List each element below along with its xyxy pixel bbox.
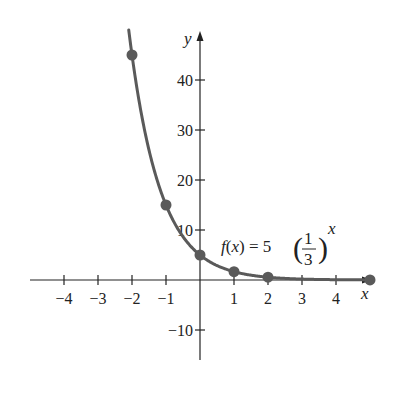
formula-equals-5: = 5 <box>245 237 272 256</box>
exponential-function-chart: −4−3−2−11234 40302010−10 x y f(x) = 5 ( … <box>0 0 393 394</box>
formula-numerator: 1 <box>304 229 313 248</box>
formula-big-open-paren: ( <box>293 231 303 265</box>
data-point <box>263 272 274 283</box>
x-tick-label: 3 <box>298 290 306 307</box>
x-axis-label: x <box>360 284 369 303</box>
formula-big-close-paren: ) <box>318 231 328 265</box>
data-point <box>195 250 206 261</box>
x-tick-label: −3 <box>89 290 106 307</box>
formula-denominator: 3 <box>304 250 313 269</box>
data-point <box>229 266 240 277</box>
y-tick-label: −10 <box>168 322 193 339</box>
data-point <box>365 274 376 285</box>
x-tick-label: 4 <box>332 290 340 307</box>
y-tick-label: 30 <box>177 122 193 139</box>
formula-exponent: x <box>327 219 336 238</box>
data-point <box>127 50 138 61</box>
x-tick-label: −1 <box>157 290 174 307</box>
function-label: f(x) = 5 ( 1 3 ) x <box>221 219 336 269</box>
x-tick-label: −4 <box>55 290 72 307</box>
x-tick-label: −2 <box>123 290 140 307</box>
x-tick-label: 1 <box>230 290 238 307</box>
y-axis-arrow-icon <box>197 31 204 41</box>
y-axis-label: y <box>182 29 192 48</box>
svg-text:f(x) = 5: f(x) = 5 <box>221 237 271 256</box>
data-point <box>161 200 172 211</box>
y-tick-label: 40 <box>177 72 193 89</box>
x-tick-label: 2 <box>264 290 272 307</box>
y-tick-label: 20 <box>177 172 193 189</box>
